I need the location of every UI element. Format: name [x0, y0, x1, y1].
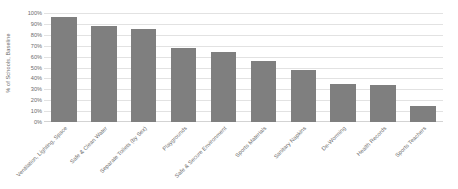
x-axis-label-slot: Sports Teachers	[403, 122, 443, 189]
x-axis-label-slot: Separate Toilets (by Sex)	[124, 122, 164, 189]
y-axis-tick-label: 0%	[14, 119, 42, 125]
x-axis-category-labels: Ventilation, Lighting, SpaceSafe & Clean…	[44, 122, 443, 189]
y-axis-title: % of Schools, Baseline	[1, 0, 15, 125]
bar-slot	[164, 13, 204, 122]
bar[interactable]	[51, 17, 77, 122]
bar-slot	[323, 13, 363, 122]
bar[interactable]	[370, 85, 396, 122]
plot-area	[44, 13, 443, 122]
y-axis-tick-label: 20%	[14, 97, 42, 103]
y-axis-tick-label: 100%	[14, 10, 42, 16]
bar[interactable]	[410, 106, 436, 122]
y-axis-tick-label: 90%	[14, 21, 42, 27]
x-axis-tick-label: De-Worming	[321, 125, 348, 152]
bar[interactable]	[131, 29, 157, 122]
y-axis-tick-label: 80%	[14, 32, 42, 38]
bar-series	[44, 13, 443, 122]
x-axis-label-slot: Sanitary Napkins	[283, 122, 323, 189]
bar[interactable]	[91, 26, 117, 122]
y-axis-tick-label: 70%	[14, 43, 42, 49]
x-axis-tick-label: Playgrounds	[161, 125, 188, 152]
bar[interactable]	[171, 48, 197, 122]
y-axis-tick-labels: 100%90%80%70%60%50%40%30%20%10%0%	[14, 13, 44, 122]
bar-chart: % of Schools, Baseline 100%90%80%70%60%5…	[0, 0, 458, 189]
bar-slot	[204, 13, 244, 122]
bar-slot	[84, 13, 124, 122]
bar[interactable]	[330, 84, 356, 122]
x-axis-label-slot: De-Worming	[323, 122, 363, 189]
bar[interactable]	[211, 52, 237, 122]
bar-slot	[44, 13, 84, 122]
y-axis-tick-label: 30%	[14, 86, 42, 92]
x-axis-tick-label: Ventilation, Lighting, Space	[15, 125, 68, 178]
bar-slot	[403, 13, 443, 122]
y-axis-tick-label: 60%	[14, 54, 42, 60]
y-axis-tick-label: 10%	[14, 108, 42, 114]
y-axis-tick-label: 50%	[14, 65, 42, 71]
y-axis-title-label: % of Schools, Baseline	[5, 33, 11, 92]
bar-slot	[283, 13, 323, 122]
bar[interactable]	[291, 70, 317, 122]
bar[interactable]	[251, 61, 277, 122]
y-axis-tick-label: 40%	[14, 75, 42, 81]
bar-slot	[124, 13, 164, 122]
bar-slot	[244, 13, 284, 122]
bar-slot	[363, 13, 403, 122]
